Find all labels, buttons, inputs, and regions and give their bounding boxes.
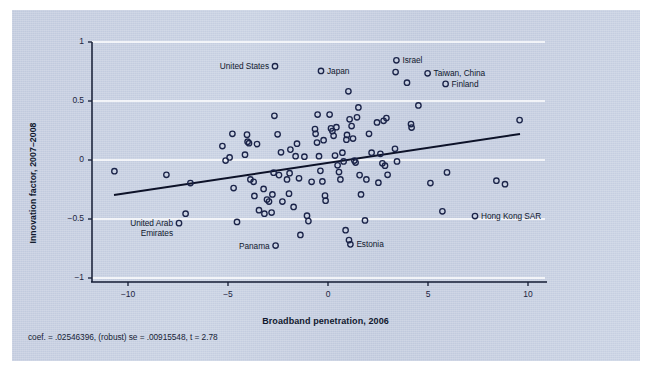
scatter-point[interactable] (376, 180, 381, 185)
scatter-point[interactable] (304, 213, 309, 218)
figure-root: −1−0.500.51 −10−50510 United StatesJapan… (0, 0, 651, 371)
scatter-point-label: United States (220, 61, 269, 71)
scatter-point[interactable] (393, 69, 398, 74)
scatter-point-label: Hong Kong SAR (481, 211, 541, 221)
scatter-point[interactable] (176, 220, 181, 225)
scatter-point[interactable] (298, 232, 303, 237)
scatter-point-label: Finland (452, 79, 479, 89)
x-tick-label: 5 (408, 289, 448, 299)
scatter-point[interactable] (332, 153, 337, 158)
scatter-point[interactable] (316, 154, 321, 159)
scatter-point[interactable] (280, 199, 285, 204)
scatter-point[interactable] (440, 209, 445, 214)
scatter-point[interactable] (276, 172, 281, 177)
scatter-point[interactable] (254, 141, 259, 146)
scatter-point[interactable] (338, 177, 343, 182)
scatter-point[interactable] (385, 172, 390, 177)
scatter-point[interactable] (278, 150, 283, 155)
y-tick-label: 0.5 (44, 95, 84, 105)
scatter-point-label: Japan (327, 66, 349, 76)
scatter-point[interactable] (472, 213, 477, 218)
scatter-point[interactable] (369, 150, 374, 155)
scatter-point[interactable] (428, 180, 433, 185)
y-tick-label: −0.5 (44, 213, 84, 223)
scatter-point[interactable] (275, 132, 280, 137)
scatter-point[interactable] (409, 125, 414, 130)
scatter-point[interactable] (358, 192, 363, 197)
scatter-point[interactable] (294, 141, 299, 146)
scatter-point[interactable] (357, 172, 362, 177)
scatter-point[interactable] (364, 177, 369, 182)
scatter-point[interactable] (256, 207, 261, 212)
scatter-point[interactable] (343, 228, 348, 233)
scatter-point[interactable] (273, 243, 278, 248)
scatter-point[interactable] (220, 143, 225, 148)
scatter-point[interactable] (252, 193, 257, 198)
scatter-point[interactable] (425, 71, 430, 76)
scatter-point[interactable] (261, 186, 266, 191)
x-tick-label: 0 (308, 289, 348, 299)
scatter-point[interactable] (286, 191, 291, 196)
scatter-point[interactable] (244, 132, 249, 137)
scatter-point[interactable] (517, 117, 522, 122)
scatter-point[interactable] (347, 117, 352, 122)
scatter-point[interactable] (327, 112, 332, 117)
scatter-point[interactable] (183, 211, 188, 216)
scatter-point[interactable] (315, 112, 320, 117)
scatter-point[interactable] (231, 185, 236, 190)
scatter-point[interactable] (336, 169, 341, 174)
scatter-point[interactable] (242, 152, 247, 157)
scatter-point[interactable] (262, 211, 267, 216)
scatter-point-label: Estonia (356, 239, 383, 249)
scatter-point[interactable] (288, 147, 293, 152)
scatter-point[interactable] (293, 154, 298, 159)
x-tick-label: −10 (108, 289, 148, 299)
scatter-point[interactable] (416, 103, 421, 108)
scatter-point[interactable] (374, 120, 379, 125)
scatter-point[interactable] (270, 192, 275, 197)
scatter-point[interactable] (350, 136, 355, 141)
scatter-point[interactable] (335, 163, 340, 168)
x-tick-label: 10 (508, 289, 548, 299)
scatter-point[interactable] (356, 105, 361, 110)
scatter-point-label: Israel (402, 55, 422, 65)
scatter-point[interactable] (334, 124, 339, 129)
scatter-point[interactable] (164, 172, 169, 177)
scatter-point-label: United ArabEmirates (130, 218, 173, 238)
scatter-point[interactable] (230, 131, 235, 136)
scatter-point[interactable] (346, 89, 351, 94)
scatter-point[interactable] (394, 58, 399, 63)
scatter-point[interactable] (392, 146, 397, 151)
scatter-point[interactable] (291, 204, 296, 209)
y-tick-label: 0 (44, 154, 84, 164)
x-tick-label: −5 (208, 289, 248, 299)
scatter-point[interactable] (444, 170, 449, 175)
scatter-point[interactable] (314, 140, 319, 145)
scatter-point[interactable] (284, 177, 289, 182)
scatter-point-label: Panama (239, 241, 270, 251)
scatter-point[interactable] (318, 168, 323, 173)
scatter-point[interactable] (272, 63, 277, 68)
scatter-point-label: Taiwan, China (434, 68, 485, 78)
scatter-point[interactable] (302, 154, 307, 159)
regression-fit-line (114, 134, 520, 195)
scatter-point[interactable] (296, 176, 301, 181)
scatter-point[interactable] (234, 219, 239, 224)
regression-line (114, 134, 520, 195)
scatter-point[interactable] (309, 179, 314, 184)
scatter-point[interactable] (404, 80, 409, 85)
scatter-point[interactable] (269, 210, 274, 215)
scatter-point[interactable] (320, 179, 325, 184)
scatter-point[interactable] (112, 169, 117, 174)
scatter-point[interactable] (366, 131, 371, 136)
scatter-point[interactable] (272, 113, 277, 118)
scatter-point[interactable] (340, 150, 345, 155)
scatter-point[interactable] (494, 178, 499, 183)
scatter-point[interactable] (349, 123, 354, 128)
scatter-point[interactable] (354, 115, 359, 120)
scatter-point[interactable] (318, 68, 323, 73)
scatter-point[interactable] (502, 181, 507, 186)
scatter-point[interactable] (321, 137, 326, 142)
scatter-point[interactable] (443, 81, 448, 86)
scatter-point[interactable] (287, 171, 292, 176)
